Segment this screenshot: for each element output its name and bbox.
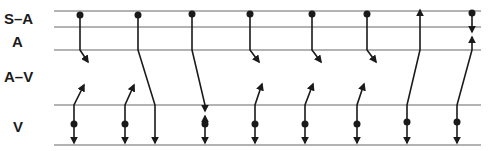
conduction-path	[80, 15, 88, 62]
retrograde-path	[305, 84, 313, 124]
ventricular-origin-dot-icon	[302, 121, 309, 128]
sinus-origin-dot-icon	[135, 12, 142, 19]
row-label-av: A–V	[4, 68, 33, 85]
conduction-path	[312, 14, 321, 62]
ventricular-impulse	[122, 85, 135, 143]
row-divider-lines	[54, 11, 481, 145]
retrograde-path	[357, 84, 364, 124]
ventricular-origin-dot-icon	[354, 121, 361, 128]
ventricular-impulse	[252, 84, 263, 143]
sinus-origin-dot-icon	[247, 11, 254, 18]
sinus-origin-dot-icon	[189, 11, 196, 18]
sinus-impulse	[309, 11, 322, 63]
sinus-origin-dot-icon	[77, 12, 84, 19]
sinus-impulse	[189, 11, 206, 112]
ventricular-impulse	[302, 84, 314, 143]
conduction-path	[138, 15, 155, 143]
conduction-path	[250, 14, 259, 62]
sinus-origin-dot-icon	[364, 11, 371, 18]
ladder-diagram	[0, 0, 489, 151]
sinus-origin-dot-icon	[469, 10, 476, 17]
ventricular-impulse	[454, 37, 473, 143]
ventricular-impulse	[202, 116, 209, 143]
conduction-path	[367, 14, 376, 62]
sinus-impulse	[364, 11, 377, 63]
sinus-impulse	[77, 12, 89, 63]
sinus-impulse	[247, 11, 260, 63]
ventricular-impulse	[354, 84, 365, 143]
retrograde-path	[255, 84, 262, 124]
ventricular-impulse	[404, 10, 421, 143]
ventricular-origin-dot-icon	[454, 119, 461, 126]
sinus-impulse	[469, 10, 476, 33]
ventricular-origin-dot-icon	[122, 121, 129, 128]
row-label-sa: S–A	[4, 10, 33, 27]
row-label-a: A	[12, 33, 23, 50]
ventricular-origin-dot-icon	[71, 121, 78, 128]
conduction-path	[192, 14, 205, 111]
sinus-origin-dot-icon	[309, 11, 316, 18]
ventricular-origin-dot-icon	[202, 121, 209, 128]
row-label-v: V	[13, 118, 23, 135]
ventricular-origin-dot-icon	[252, 121, 259, 128]
ventricular-impulse	[71, 85, 85, 143]
impulse-paths	[71, 10, 476, 144]
ventricular-origin-dot-icon	[404, 119, 411, 126]
sinus-impulse	[135, 12, 156, 144]
